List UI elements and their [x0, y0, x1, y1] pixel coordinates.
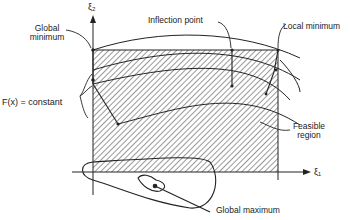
global-minimum-line2: minimum — [22, 33, 72, 42]
inflection-point-label: Inflection point — [148, 16, 203, 25]
x-axis-arrow-icon — [303, 169, 311, 175]
objective-contour-label: F(x) = constant — [2, 98, 62, 107]
y-axis-arrow-icon — [90, 15, 96, 23]
local-minimum-label: Local minimum — [283, 22, 340, 31]
global-maximum-label: Global maximum — [216, 206, 280, 215]
global-minimum-label: Global minimum — [22, 24, 72, 42]
global-minimum-point — [91, 48, 95, 52]
x-axis-label: ξ₁ — [314, 168, 321, 177]
y-axis-label: ξ₂ — [88, 3, 96, 12]
feasible-region-label: Feasible region — [285, 122, 333, 140]
local-minimum-point — [276, 48, 279, 51]
feasible-region-line2: region — [285, 131, 333, 140]
inflection-point-dot — [230, 48, 233, 51]
